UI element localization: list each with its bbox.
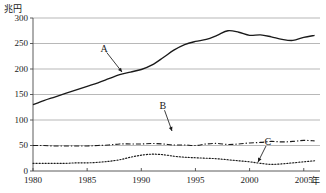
annotation-arrowhead-b bbox=[169, 127, 173, 131]
x-axis-tick-label: 2000 bbox=[230, 176, 270, 185]
x-axis-tick-label: 2005 bbox=[284, 176, 324, 185]
x-axis-tick-label: 1990 bbox=[121, 176, 161, 185]
series-label-c: C bbox=[265, 137, 272, 147]
gridlines bbox=[33, 18, 320, 146]
y-axis-tick-label: 200 bbox=[6, 65, 28, 74]
chart-container: 兆円 年 050100150200250300 1980198519901995… bbox=[0, 0, 326, 193]
y-axis-tick-label: 250 bbox=[6, 39, 28, 48]
y-axis-tick-label: 100 bbox=[6, 116, 28, 125]
series-line-a bbox=[33, 31, 315, 105]
series-label-b: B bbox=[160, 101, 167, 111]
series-paths bbox=[33, 31, 315, 165]
x-axis-tick-label: 1985 bbox=[67, 176, 107, 185]
series-line-c bbox=[33, 154, 315, 164]
x-axis-tick-label: 1980 bbox=[13, 176, 53, 185]
y-axis-tick-label: 150 bbox=[6, 90, 28, 99]
line-chart-plot bbox=[0, 0, 326, 193]
y-axis-tick-label: 300 bbox=[6, 14, 28, 23]
x-axis-tick-label: 1995 bbox=[175, 176, 215, 185]
y-axis-tick-label: 50 bbox=[6, 141, 28, 150]
series-label-a: A bbox=[101, 44, 108, 54]
